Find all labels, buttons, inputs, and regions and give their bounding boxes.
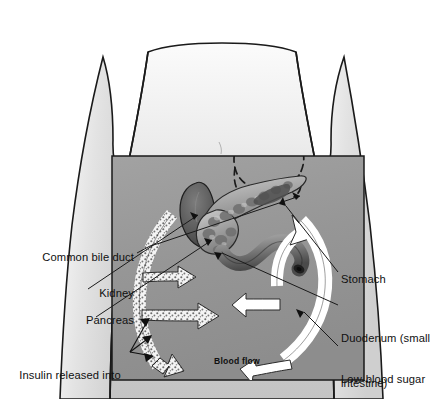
label-common-bile-duct: Common bile duct bbox=[6, 250, 134, 265]
figure-canvas: Common bile duct Kidney Pancreas Insulin… bbox=[0, 0, 443, 399]
abdomen-inset-panel bbox=[112, 127, 364, 383]
label-stomach: Stomach bbox=[341, 272, 441, 287]
label-kidney: Kidney bbox=[14, 286, 134, 301]
label-pancreas: Pancreas bbox=[14, 313, 134, 328]
label-insulin-line1: Insulin released into bbox=[2, 368, 138, 383]
label-insulin-released: Insulin released into glucose-rich blood bbox=[2, 338, 138, 399]
label-lowblood-line1: Low-blood sugar bbox=[341, 372, 443, 387]
label-blood-flow: Blood flow bbox=[196, 354, 278, 369]
label-low-blood-sugar: Low-blood sugar inhibits insulin release bbox=[341, 342, 443, 399]
